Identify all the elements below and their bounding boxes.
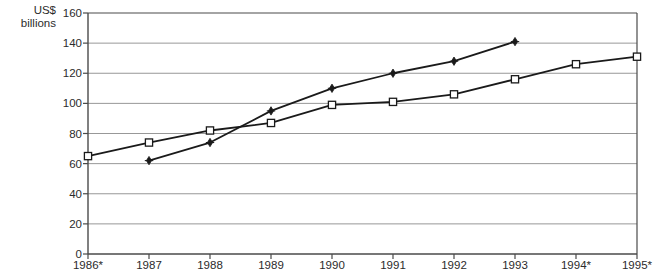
marker-diamond-1988 <box>206 138 214 146</box>
marker-square-1989 <box>267 119 274 126</box>
series-line-series-open-square <box>88 57 637 156</box>
marker-diamond-1989 <box>267 107 275 115</box>
marker-square-1992 <box>450 91 457 98</box>
marker-square-1988 <box>206 127 213 134</box>
marker-diamond-1991 <box>389 69 397 77</box>
chart-plot-area <box>0 0 656 280</box>
marker-square-1994* <box>572 61 579 68</box>
marker-square-1995* <box>633 53 640 60</box>
marker-square-1986* <box>84 152 91 159</box>
marker-diamond-1992 <box>450 57 458 65</box>
marker-square-1987 <box>145 139 152 146</box>
marker-diamond-1990 <box>328 84 336 92</box>
chart-container: US$ billions 160140120100806040200 1986*… <box>0 0 656 280</box>
marker-diamond-1993 <box>511 37 519 45</box>
marker-square-1993 <box>511 76 518 83</box>
marker-square-1991 <box>389 98 396 105</box>
marker-square-1990 <box>328 101 335 108</box>
